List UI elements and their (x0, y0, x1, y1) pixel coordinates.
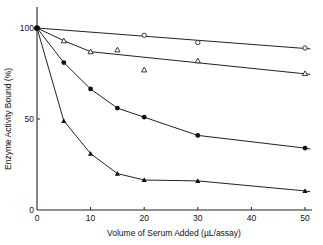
series-line (37, 28, 310, 74)
open-triangle-marker (61, 38, 66, 43)
open-circle-marker (142, 33, 146, 37)
x-tick-label: 50 (300, 213, 310, 223)
y-tick-label: 100 (20, 23, 34, 33)
filled-triangle-marker (61, 118, 66, 123)
series-line (37, 28, 310, 49)
filled-circle-marker (195, 133, 200, 138)
open-circle-marker (303, 46, 307, 50)
open-triangle-marker (142, 67, 147, 72)
filled-circle-marker (303, 146, 308, 151)
x-tick-label: 0 (35, 213, 40, 223)
x-tick-label: 10 (86, 213, 96, 223)
series-lines (37, 28, 310, 192)
filled-circle-marker (61, 60, 66, 65)
chart-container: 01020304050050100 Volume of Serum Added … (0, 0, 323, 245)
filled-circle-marker (142, 115, 147, 120)
open-circle-marker (196, 40, 200, 44)
filled-circle-marker (115, 106, 120, 111)
y-axis-label: Enzyme Activity Bound (%) (3, 68, 13, 170)
open-triangle-marker (115, 47, 120, 52)
x-axis-label: Volume of Serum Added (µL/assay) (107, 228, 241, 238)
y-tick-label: 50 (25, 114, 35, 124)
filled-circle-marker (88, 87, 93, 92)
x-tick-label: 20 (139, 213, 149, 223)
y-tick-label: 0 (29, 205, 34, 215)
x-tick-label: 30 (193, 213, 203, 223)
x-tick-label: 40 (247, 213, 257, 223)
origin-marker (34, 25, 39, 30)
line-chart: 01020304050050100 Volume of Serum Added … (0, 0, 323, 245)
series-line (37, 28, 310, 192)
open-triangle-marker (195, 58, 200, 63)
series-markers (34, 25, 307, 193)
